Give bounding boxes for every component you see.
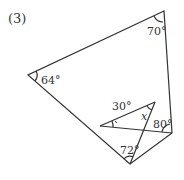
angle-label-30: 30° xyxy=(112,101,132,112)
arc-64 xyxy=(35,71,37,81)
angle-label-80: 80° xyxy=(153,119,173,130)
angle-label-72: 72° xyxy=(120,145,140,156)
angle-label-70: 70° xyxy=(147,26,167,37)
angle-label-64: 64° xyxy=(41,75,61,86)
arc-30 xyxy=(112,121,113,127)
arc-70 xyxy=(154,16,163,22)
angle-label-x: x xyxy=(141,111,147,122)
problem-label: (3) xyxy=(8,12,26,25)
arc-x xyxy=(147,106,152,110)
